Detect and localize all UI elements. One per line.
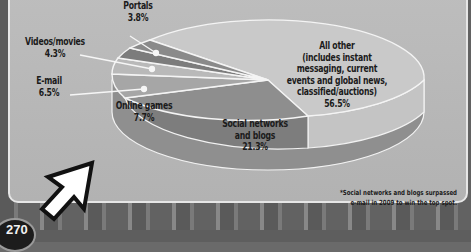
cursor-icon bbox=[42, 163, 92, 219]
page-number-badge: 270 bbox=[0, 218, 36, 252]
label-videos: Videos/movies 4.3% bbox=[18, 36, 92, 59]
footnote: *Social networks and blogs surpassed e-m… bbox=[324, 188, 457, 208]
label-all-other: All other (includes instant messaging, c… bbox=[276, 40, 399, 109]
label-social: Social networks and blogs 21.3% bbox=[206, 118, 304, 153]
label-portals: Portals 3.8% bbox=[105, 0, 171, 23]
page-number: 270 bbox=[6, 222, 28, 237]
label-email: E-mail 6.5% bbox=[20, 75, 77, 98]
label-games: Online games 7.7% bbox=[111, 100, 177, 123]
